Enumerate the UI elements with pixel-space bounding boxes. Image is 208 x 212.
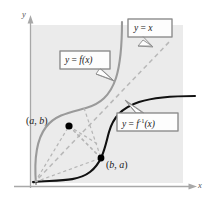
point-label-ab: (a, b) [26, 116, 48, 126]
inverse-function-figure: y x y = x y = f(x) y = f-1(x) (a, b) (b,… [0, 0, 208, 212]
callout-label-y-equals-f-inverse-x: y = f-1(x) [122, 118, 155, 130]
point-ba-marker [98, 155, 105, 162]
y-axis-label: y [22, 10, 26, 19]
point-ab-marker [65, 122, 72, 129]
callout-y-equals-fx-rhs: f(x) [79, 55, 92, 65]
callout-y-equals-x-rhs: x [148, 23, 152, 33]
figure-canvas [0, 0, 208, 212]
x-axis [14, 184, 197, 190]
point-ba-close: ) [124, 159, 127, 170]
callout-label-y-equals-x: y = x [134, 24, 153, 34]
callout-finv-tail: (x) [144, 119, 155, 129]
point-label-ba: (b, a) [106, 160, 128, 170]
point-ab-close: ) [44, 115, 47, 126]
x-axis-label: x [198, 181, 202, 190]
callout-label-y-equals-fx: y = f(x) [65, 56, 93, 66]
